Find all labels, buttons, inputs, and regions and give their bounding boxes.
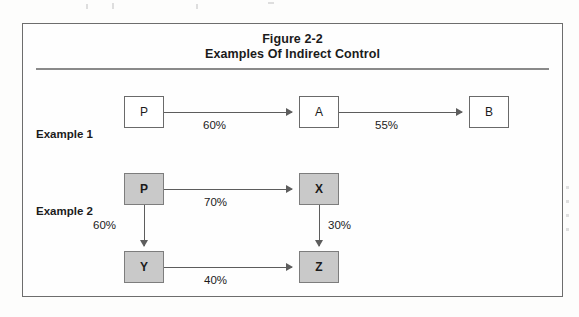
- arrow-p-to-a: [164, 112, 292, 114]
- scan-speckle: [566, 214, 569, 217]
- node-y: Y: [124, 251, 164, 283]
- scan-speckle: [566, 186, 569, 189]
- edge-label-a-to-b: 55%: [375, 119, 398, 131]
- scanned-page-background: Figure 2-2 Examples Of Indirect Control …: [0, 0, 579, 317]
- node-a: A: [299, 96, 339, 128]
- figure-title: Figure 2-2 Examples Of Indirect Control: [23, 32, 562, 62]
- node-p-example-2: P: [124, 173, 164, 205]
- arrow-x-to-z: [319, 205, 321, 246]
- arrow-y-to-z: [164, 267, 292, 269]
- edge-label-p-to-y: 60%: [93, 219, 116, 231]
- scan-speckle: [566, 228, 569, 231]
- edge-label-x-to-z: 30%: [328, 219, 351, 231]
- node-x: X: [299, 173, 339, 205]
- scan-speckle: [196, 4, 198, 9]
- node-p-example-1: P: [124, 96, 164, 128]
- figure-number: Figure 2-2: [262, 32, 323, 46]
- edge-label-p-to-a: 60%: [203, 119, 226, 131]
- node-b: B: [469, 96, 509, 128]
- arrow-a-to-b: [339, 112, 462, 114]
- scan-speckle: [112, 3, 114, 9]
- arrow-p-to-x: [164, 189, 292, 191]
- scan-speckle: [268, 2, 274, 4]
- scan-speckle: [566, 200, 569, 203]
- example-2-label: Example 2: [36, 205, 93, 217]
- edge-label-p-to-x: 70%: [204, 196, 227, 208]
- node-z: Z: [299, 251, 339, 283]
- figure-frame: Figure 2-2 Examples Of Indirect Control …: [22, 23, 563, 297]
- arrow-p-to-y: [144, 205, 146, 246]
- figure-caption: Examples Of Indirect Control: [23, 47, 562, 62]
- scan-speckle: [86, 4, 88, 9]
- example-1-label: Example 1: [36, 128, 93, 140]
- title-divider: [36, 68, 549, 70]
- edge-label-y-to-z: 40%: [204, 274, 227, 286]
